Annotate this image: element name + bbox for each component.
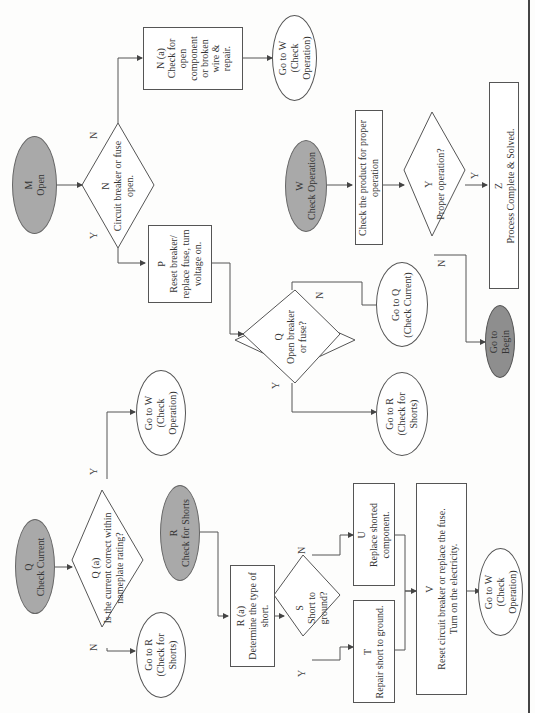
node-text: Repair short to ground. bbox=[374, 605, 386, 698]
node-text: open. bbox=[124, 140, 136, 230]
node-text: or fuse? bbox=[297, 309, 309, 363]
node-text: Is the current correct within bbox=[102, 512, 114, 623]
node-text: Shorts) bbox=[167, 633, 179, 676]
node-title: Open bbox=[34, 174, 46, 196]
node-n-a-label: N (a) Check for open component or broken… bbox=[155, 36, 232, 80]
node-text: nameplate rating? bbox=[114, 512, 126, 623]
node-text: (Check bbox=[289, 36, 301, 79]
node-v-label: V Reset circuit breaker or replace the f… bbox=[424, 508, 460, 669]
node-text: component bbox=[188, 36, 199, 80]
flowchart-canvas: M Open N Circuit breaker or fuse open. Y… bbox=[0, 0, 535, 713]
node-id: R bbox=[168, 499, 180, 567]
node-text: component. bbox=[380, 502, 392, 566]
node-id: N bbox=[100, 140, 112, 230]
edge-label-y-yes: Y bbox=[469, 172, 480, 179]
node-text: (Check for bbox=[155, 633, 167, 676]
node-text: Go to R bbox=[384, 392, 396, 435]
edge-label-qa-no: N bbox=[88, 644, 99, 651]
node-goto-q-label: Go to Q (Check Current) bbox=[390, 272, 414, 337]
node-q-open-label: Q Open breaker or fuse? bbox=[273, 309, 309, 363]
node-text: Replace shorted bbox=[368, 502, 380, 566]
node-text: Go to W bbox=[483, 570, 495, 613]
node-id: R (a) bbox=[235, 572, 247, 659]
node-id: Q bbox=[273, 309, 285, 363]
node-n-a-check-open[interactable]: N (a) Check for open component or broken… bbox=[143, 27, 243, 90]
node-goto-w-bottom-label: Go to W (Check Operation) bbox=[483, 570, 519, 613]
node-goto-q[interactable]: Go to Q (Check Current) bbox=[376, 262, 428, 347]
node-w-check-operation[interactable]: W Check Operation bbox=[285, 140, 327, 232]
node-id: Q bbox=[23, 537, 35, 596]
edge-label-qa-yes: Y bbox=[88, 468, 99, 475]
node-id: S bbox=[295, 591, 307, 624]
node-text: Go to Q bbox=[390, 272, 402, 337]
node-goto-w-top-label: Go to W (Check Operation) bbox=[277, 36, 313, 79]
edge-label-s-no: N bbox=[296, 547, 307, 554]
node-w-box-label: Check the product for proper operation bbox=[357, 119, 381, 235]
node-u-replace-component[interactable]: U Replace shorted component. bbox=[353, 483, 395, 586]
node-goto-begin-label: Go to Begin bbox=[488, 330, 512, 354]
node-m-open-label: M Open bbox=[22, 174, 46, 196]
node-goto-w-mid-label: Go to W (Check Operation) bbox=[143, 391, 179, 434]
node-w-label: W Check Operation bbox=[294, 152, 318, 220]
node-q-open-breaker[interactable]: Q Open breaker or fuse? bbox=[243, 290, 340, 383]
node-id: Z bbox=[492, 128, 504, 243]
node-n-decision-label: N Circuit breaker or fuse open. bbox=[100, 140, 136, 230]
node-goto-w-mid[interactable]: Go to W (Check Operation) bbox=[136, 370, 186, 456]
node-q-check-current-label: Q Check Current bbox=[23, 537, 47, 596]
edge-label-q-open-no: N bbox=[314, 292, 325, 299]
node-text: (Check bbox=[155, 391, 167, 434]
node-text: Go to W bbox=[277, 36, 289, 79]
node-r-check-shorts[interactable]: R Check for Shorts bbox=[160, 485, 200, 581]
node-text: Operation) bbox=[167, 391, 179, 434]
edge-label-n-no: N bbox=[88, 132, 99, 139]
node-text: voltage on. bbox=[192, 229, 204, 298]
node-goto-w-bottom[interactable]: Go to W (Check Operation) bbox=[478, 548, 523, 636]
node-text: Proper operation? bbox=[435, 148, 447, 219]
node-goto-w-top[interactable]: Go to W (Check Operation) bbox=[272, 15, 317, 101]
node-goto-begin[interactable]: Go to Begin bbox=[485, 305, 515, 378]
node-text: Process Complete & Solved. bbox=[504, 128, 516, 243]
node-text: replace fuse, turn bbox=[180, 229, 192, 298]
node-p-label: P Reset breaker/ replace fuse, turn volt… bbox=[156, 229, 204, 298]
node-text: Check the product for proper bbox=[357, 119, 369, 235]
node-y-proper-operation[interactable]: Y Proper operation? bbox=[404, 112, 465, 255]
node-s-short-to-ground[interactable]: S Short to ground? bbox=[285, 555, 340, 660]
node-text: Reset breaker/ bbox=[168, 229, 180, 298]
node-q-check-current[interactable]: Q Check Current bbox=[15, 519, 55, 614]
node-w-check-product[interactable]: Check the product for proper operation bbox=[355, 110, 383, 245]
node-goto-r-left[interactable]: Go to R (Check for Shorts) bbox=[136, 612, 186, 698]
node-text: Turn on the electricity. bbox=[448, 508, 460, 669]
node-z-process-complete[interactable]: Z Process Complete & Solved. bbox=[489, 82, 519, 289]
node-text: Operation) bbox=[507, 570, 519, 613]
node-id: U bbox=[356, 502, 368, 566]
node-text: operation bbox=[369, 119, 381, 235]
node-text: ground? bbox=[319, 591, 331, 624]
node-s-label: S Short to ground? bbox=[295, 591, 331, 624]
node-m-open[interactable]: M Open bbox=[12, 136, 57, 234]
node-text: Circuit breaker or fuse bbox=[112, 140, 124, 230]
node-text: (Check Current) bbox=[402, 272, 414, 337]
node-id: N (a) bbox=[155, 36, 166, 80]
node-goto-r-mid[interactable]: Go to R (Check for Shorts) bbox=[376, 372, 428, 456]
node-text: Begin bbox=[500, 330, 512, 354]
node-id: Y bbox=[423, 148, 435, 219]
node-title: Check for Shorts bbox=[180, 499, 192, 567]
node-goto-r-left-label: Go to R (Check for Shorts) bbox=[143, 633, 179, 676]
node-text: Check for bbox=[166, 36, 177, 80]
node-t-repair-short[interactable]: T Repair short to ground. bbox=[353, 600, 395, 703]
node-text: Open breaker bbox=[285, 309, 297, 363]
node-v-reset-circuit[interactable]: V Reset circuit breaker or replace the f… bbox=[416, 483, 467, 695]
edge-label-y-no: N bbox=[436, 260, 447, 267]
node-text: Go to R bbox=[143, 633, 155, 676]
node-t-label: T Repair short to ground. bbox=[362, 605, 386, 698]
node-text: Go to bbox=[488, 330, 500, 354]
node-r-a-determine-short[interactable]: R (a) Determine the type of short. bbox=[230, 565, 275, 667]
node-text: Operation) bbox=[301, 36, 313, 79]
node-id: V bbox=[424, 508, 436, 669]
node-p-reset-breaker[interactable]: P Reset breaker/ replace fuse, turn volt… bbox=[148, 225, 212, 303]
node-goto-r-mid-label: Go to R (Check for Shorts) bbox=[384, 392, 420, 435]
edge-label-s-yes: Y bbox=[296, 670, 307, 677]
node-n-decision[interactable]: N Circuit breaker or fuse open. bbox=[82, 123, 154, 248]
node-qa-current-rating[interactable]: Q (a) Is the current correct within name… bbox=[72, 485, 144, 650]
node-text: Shorts) bbox=[408, 392, 420, 435]
